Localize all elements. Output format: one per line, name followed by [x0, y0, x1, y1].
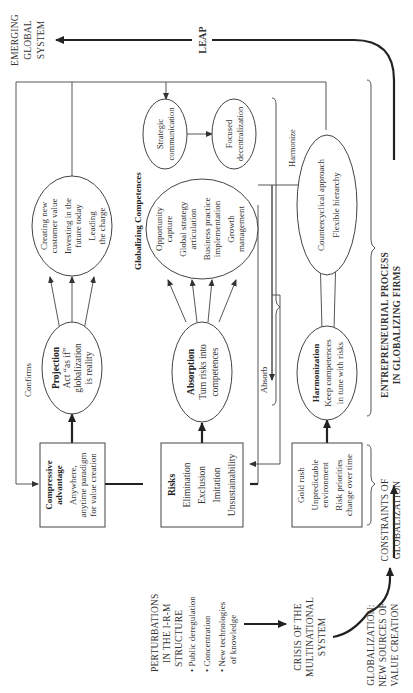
diagram-canvas: EMERGING GLOBAL SYSTEM LEAP ENTREPRENEUR…: [0, 0, 413, 693]
svg-text:anytime paradigm: anytime paradigm: [78, 452, 88, 517]
emerging-global-system-label: EMERGING GLOBAL SYSTEM: [10, 14, 46, 66]
svg-text:Elimination: Elimination: [182, 462, 192, 507]
constraints-brace: [367, 445, 375, 525]
svg-text:PERTURBATIONS: PERTURBATIONS: [150, 593, 160, 672]
svg-text:decentralization: decentralization: [235, 106, 245, 161]
svg-text:Globalizing Competences: Globalizing Competences: [133, 172, 143, 270]
globalizing-competences-label: Globalizing Competences: [133, 172, 143, 270]
competences-brace: [272, 98, 280, 405]
svg-text:Business practice: Business practice: [202, 198, 212, 261]
constraints-label: CONSTRAINTS OF GLOBALIZATION: [380, 479, 402, 562]
absorb-label: Absorb: [259, 366, 269, 393]
svg-text:Gold rush: Gold rush: [296, 467, 306, 503]
svg-text:• Public deregulation: • Public deregulation: [187, 596, 197, 672]
absorption-arrow-4: [219, 280, 236, 322]
svg-text:Opportunity: Opportunity: [154, 207, 164, 251]
svg-text:CONSTRAINTS OF: CONSTRAINTS OF: [380, 479, 390, 562]
absorption-arrow-3: [208, 280, 212, 322]
absorption-arrow-2: [192, 280, 197, 322]
svg-text:globalization: globalization: [73, 343, 83, 393]
absorption-text: Absorption Turn risks into competences: [186, 344, 220, 400]
svg-text:articulation: articulation: [188, 208, 198, 249]
confirms-label: Confirms: [23, 363, 33, 397]
svg-text:implementation: implementation: [212, 200, 222, 257]
svg-text:STRUCTURE: STRUCTURE: [174, 610, 184, 667]
svg-text:of knowledge: of knowledge: [228, 615, 238, 664]
countercyclical-ellipse: [297, 135, 357, 275]
svg-text:Unpredictable: Unpredictable: [310, 460, 320, 511]
svg-text:Keep competences: Keep competences: [323, 339, 333, 407]
svg-text:GLOBALIZATION: GLOBALIZATION: [392, 481, 402, 560]
svg-text:is reality: is reality: [84, 351, 94, 384]
strategic-communication-ellipse: [143, 99, 187, 169]
svg-text:Global strategy: Global strategy: [178, 201, 188, 257]
svg-text:Investing in the: Investing in the: [63, 198, 73, 254]
svg-text:• Concentration: • Concentration: [202, 615, 212, 672]
svg-text:advantage: advantage: [54, 465, 64, 505]
svg-text:for value creation: for value creation: [88, 453, 98, 517]
absorption-arrow-1: [168, 280, 186, 322]
svg-text:LEAP: LEAP: [197, 26, 208, 53]
svg-text:Absorption: Absorption: [186, 348, 196, 395]
svg-text:Harmonization: Harmonization: [311, 344, 321, 403]
svg-text:Absorb: Absorb: [259, 366, 269, 393]
svg-text:GLOBALIZATION:: GLOBALIZATION:: [366, 604, 376, 685]
svg-text:future today: future today: [73, 204, 83, 248]
svg-text:Growth: Growth: [226, 215, 236, 243]
entrepreneurial-process-label: ENTREPRENEURIAL PROCESS IN GLOBALIZING F…: [380, 252, 402, 398]
svg-text:change over time: change over time: [344, 454, 354, 516]
svg-text:customer value: customer value: [49, 199, 59, 254]
svg-text:in tune with risks: in tune with risks: [335, 341, 345, 404]
svg-text:the charge: the charge: [97, 207, 107, 244]
leap-label: LEAP: [197, 26, 208, 53]
absorb-loop: [250, 230, 280, 464]
focused-decentralization-ellipse: [212, 99, 256, 169]
svg-text:NEW SOURCES OF: NEW SOURCES OF: [378, 603, 388, 687]
crisis-to-globalization-curve: [333, 613, 368, 637]
svg-text:Confirms: Confirms: [23, 363, 33, 397]
harmonize-label: Harmonize: [287, 129, 297, 167]
svg-text:Strategic: Strategic: [155, 119, 165, 149]
svg-text:Imitation: Imitation: [212, 467, 222, 502]
svg-text:VALUE CREATION: VALUE CREATION: [390, 603, 400, 686]
svg-text:GLOBAL: GLOBAL: [23, 20, 33, 60]
svg-text:competences: competences: [210, 347, 220, 396]
svg-text:• New technologies: • New technologies: [217, 601, 227, 672]
svg-text:Anywhere,: Anywhere,: [68, 465, 78, 505]
svg-text:Unsustainability: Unsustainability: [227, 454, 237, 517]
svg-text:Act “as if”: Act “as if”: [62, 348, 72, 389]
svg-text:management: management: [236, 206, 246, 252]
svg-text:SYSTEM: SYSTEM: [36, 20, 46, 59]
svg-text:SYSTEM: SYSTEM: [317, 617, 327, 656]
svg-text:Projection: Projection: [51, 346, 61, 389]
svg-text:Compressive: Compressive: [44, 460, 54, 509]
svg-text:EMERGING: EMERGING: [10, 14, 20, 66]
globalization-label: GLOBALIZATION: NEW SOURCES OF VALUE CREA…: [366, 603, 400, 687]
svg-text:IN THE I-R-M: IN THE I-R-M: [162, 603, 172, 663]
svg-text:Harmonize: Harmonize: [287, 129, 297, 167]
svg-text:Focused: Focused: [224, 119, 234, 148]
svg-text:capture: capture: [164, 216, 174, 242]
svg-text:Risks: Risks: [167, 474, 177, 496]
svg-text:Creating new: Creating new: [39, 201, 49, 250]
svg-text:ENTREPRENEURIAL PROCESS: ENTREPRENEURIAL PROCESS: [380, 252, 390, 398]
svg-text:Countercyclical approach: Countercyclical approach: [316, 158, 326, 251]
entrepreneurial-brace: [367, 80, 375, 416]
svg-text:IN GLOBALIZING FIRMS: IN GLOBALIZING FIRMS: [392, 266, 402, 385]
harmonize-arrow: [258, 185, 300, 380]
svg-text:environment: environment: [320, 462, 330, 508]
svg-text:CRISIS OF THE: CRISIS OF THE: [293, 603, 303, 670]
svg-text:communication: communication: [166, 107, 176, 161]
harmonization-text: Harmonization Keep competences in tune w…: [311, 339, 345, 407]
svg-text:Flexible hierarchy: Flexible hierarchy: [331, 172, 341, 238]
projection-arrow-3: [84, 277, 94, 330]
projection-arrow-1: [50, 277, 60, 330]
svg-text:Leading: Leading: [87, 211, 97, 241]
crisis-label: CRISIS OF THE MULTINATIONAL SYSTEM: [293, 597, 327, 677]
perturbations-label: PERTURBATIONS IN THE I-R-M STRUCTURE • P…: [150, 593, 238, 672]
svg-text:Turn risks into: Turn risks into: [198, 344, 208, 400]
svg-text:MULTINATIONAL: MULTINATIONAL: [305, 597, 315, 677]
svg-text:Risk priorities: Risk priorities: [334, 459, 344, 511]
svg-text:Exclusion: Exclusion: [197, 466, 207, 504]
